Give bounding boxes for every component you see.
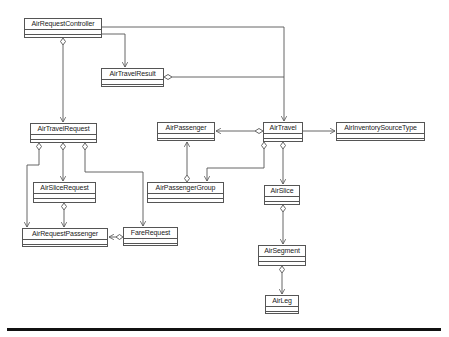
class-air-request-controller: AirRequestController — [24, 18, 102, 38]
operations-compartment — [337, 139, 424, 143]
class-name: FareRequest — [124, 228, 177, 239]
diamond-icon — [61, 143, 66, 150]
class-name: AirSegment — [259, 246, 305, 257]
operations-compartment — [23, 245, 107, 249]
assoc-controller-result — [102, 34, 125, 67]
class-air-passenger-group: AirPassengerGroup — [147, 182, 224, 203]
bottom-divider-rule — [7, 328, 441, 331]
operations-compartment — [25, 35, 101, 39]
operations-compartment — [148, 199, 223, 203]
diamond-icon — [37, 143, 42, 150]
class-air-segment: AirSegment — [258, 245, 306, 266]
class-air-travel: AirTravel — [263, 122, 303, 142]
agg-airtravel-passengergroup — [207, 149, 264, 181]
class-air-slice: AirSlice — [264, 185, 300, 205]
operations-compartment — [266, 312, 298, 316]
diamond-icon — [62, 203, 67, 210]
class-name: AirLeg — [266, 296, 298, 307]
operations-compartment — [31, 140, 96, 144]
class-air-leg: AirLeg — [265, 295, 299, 314]
class-name: AirSliceRequest — [34, 183, 95, 194]
operations-compartment — [264, 139, 302, 143]
class-name: AirTravel — [264, 123, 302, 134]
class-name: AirSlice — [265, 186, 299, 197]
class-fare-request: FareRequest — [123, 227, 178, 246]
class-name: AirTravelRequest — [31, 124, 96, 135]
class-air-travel-request: AirTravelRequest — [30, 123, 97, 143]
operations-compartment — [124, 244, 177, 248]
class-air-passenger: AirPassenger — [157, 122, 215, 141]
operations-compartment — [259, 262, 305, 266]
diamond-icon — [61, 38, 66, 45]
class-name: AirRequestPassenger — [23, 229, 107, 240]
uml-class-diagram: AirRequestController AirTravelResult Air… — [0, 0, 449, 337]
diamond-icon — [281, 142, 286, 149]
operations-compartment — [102, 85, 163, 89]
diamond-icon — [281, 205, 286, 212]
diamond-icon — [255, 129, 263, 134]
class-air-request-passenger: AirRequestPassenger — [22, 228, 108, 247]
diamond-icon — [262, 142, 267, 149]
class-name: AirTravelResult — [102, 69, 163, 80]
diamond-icon — [185, 175, 190, 182]
class-air-inventory-source-type: AirInventorySourceType — [336, 122, 425, 141]
class-name: AirInventorySourceType — [337, 123, 424, 134]
operations-compartment — [34, 199, 95, 203]
operations-compartment — [265, 202, 299, 206]
class-air-travel-result: AirTravelResult — [101, 68, 164, 87]
operations-compartment — [158, 139, 214, 143]
class-name: AirRequestController — [25, 19, 101, 30]
diamond-icon — [116, 235, 123, 240]
class-air-slice-request: AirSliceRequest — [33, 182, 96, 203]
connector-layer — [0, 0, 449, 337]
class-name: AirPassenger — [158, 123, 214, 134]
diamond-icon — [280, 266, 285, 273]
diamond-icon — [83, 143, 88, 150]
class-name: AirPassengerGroup — [148, 183, 223, 194]
diamond-icon — [164, 75, 172, 80]
